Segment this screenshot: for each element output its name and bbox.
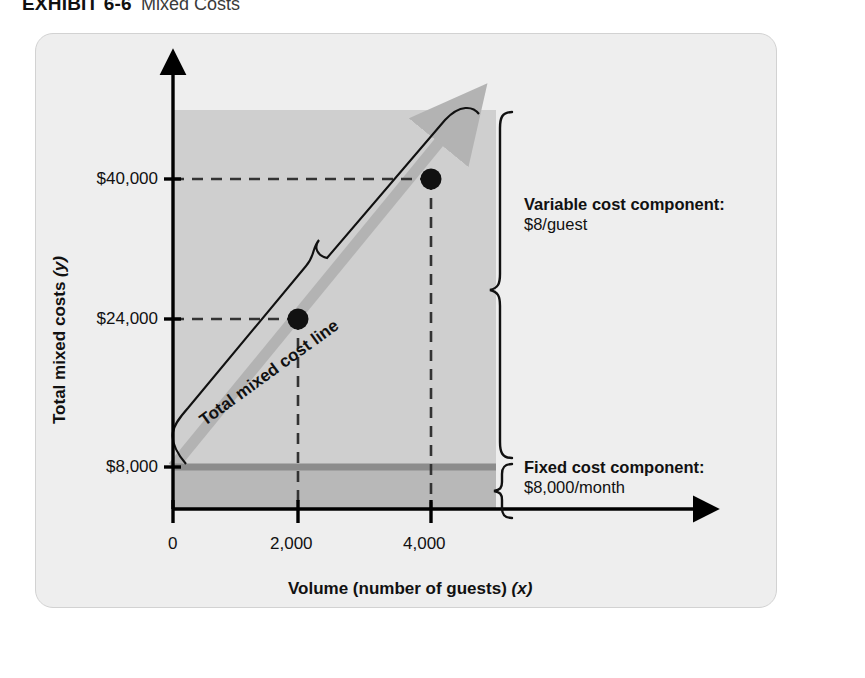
- exhibit-caption: EXHIBIT 6-6 Mixed Costs: [22, 0, 240, 17]
- y-axis-title: Total mixed costs (y): [50, 256, 70, 424]
- y-tick-label-40000: $40,000: [54, 169, 158, 189]
- figure-panel: $40,000 $24,000 $8,000 0 2,000 4,000 Tot…: [35, 33, 777, 608]
- y-axis-title-text: Total mixed costs: [50, 277, 69, 424]
- exhibit-title: Mixed Costs: [141, 0, 240, 15]
- variable-cost-callout-head: Variable cost component:: [524, 194, 725, 214]
- x-tick-label-2000: 2,000: [270, 534, 313, 554]
- fixed-cost-callout-sub: $8,000/month: [524, 477, 705, 497]
- variable-cost-callout: Variable cost component: $8/guest: [524, 194, 725, 234]
- fixed-cost-callout: Fixed cost component: $8,000/month: [524, 457, 705, 497]
- x-tick-label-4000: 4,000: [403, 534, 446, 554]
- data-point-24000: [288, 309, 309, 330]
- exhibit-label: EXHIBIT 6-6: [22, 0, 132, 15]
- plot-area: $40,000 $24,000 $8,000 0 2,000 4,000 Tot…: [36, 34, 778, 609]
- x-axis-title-variable: (x): [512, 579, 533, 598]
- y-tick-label-8000: $8,000: [54, 457, 158, 477]
- variable-cost-callout-sub: $8/guest: [524, 214, 725, 234]
- x-axis-title: Volume (number of guests) (x): [288, 579, 532, 599]
- data-point-40000: [421, 169, 442, 190]
- x-axis-title-text: Volume (number of guests): [288, 579, 512, 598]
- fixed-cost-callout-head: Fixed cost component:: [524, 457, 705, 477]
- fixed-cost-region: [173, 467, 496, 509]
- x-tick-label-0: 0: [168, 534, 177, 554]
- y-axis-title-variable: (y): [50, 256, 69, 277]
